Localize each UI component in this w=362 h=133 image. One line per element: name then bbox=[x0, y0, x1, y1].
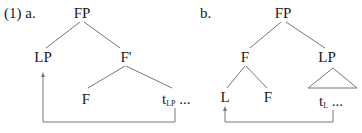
trace-a-ellipsis: ... bbox=[176, 91, 191, 107]
tree-lines bbox=[0, 0, 362, 133]
example-number-text: (1) bbox=[4, 5, 22, 21]
tree-a-head-f: F bbox=[82, 92, 90, 107]
tree-a-trace: tLP ... bbox=[162, 92, 191, 111]
trace-a-subscript: LP bbox=[166, 99, 175, 108]
edge-b-fp-lp bbox=[286, 22, 325, 48]
edge-b-f-l bbox=[227, 66, 245, 88]
tree-b-root: FP bbox=[275, 6, 292, 21]
tree-a-left-child: LP bbox=[34, 50, 52, 65]
arrowhead-a-icon bbox=[41, 72, 45, 77]
edge-a-fp-fbar bbox=[84, 22, 120, 48]
edge-b-f-f bbox=[246, 66, 267, 88]
trace-b-ellipsis: ... bbox=[328, 93, 343, 109]
tree-a-right-child: F' bbox=[120, 50, 131, 65]
edge-a-fp-lp bbox=[46, 22, 80, 48]
tree-a-label: a. bbox=[25, 5, 35, 21]
example-number: (1) a. bbox=[4, 6, 36, 21]
triangle-b-lp bbox=[308, 68, 357, 88]
tree-b-l: L bbox=[220, 90, 229, 105]
tree-b-f: F bbox=[264, 90, 272, 105]
tree-b-label: b. bbox=[200, 6, 211, 21]
tree-b-trace: tL ... bbox=[319, 94, 343, 113]
movement-arrow-b bbox=[225, 110, 333, 122]
arrowhead-b-icon bbox=[223, 106, 227, 111]
edge-a-fbar-trace bbox=[126, 66, 172, 88]
movement-arrow-a bbox=[43, 76, 175, 122]
edge-b-fp-f bbox=[250, 22, 281, 48]
tree-b-left-child: F bbox=[241, 50, 249, 65]
tree-b-right-child: LP bbox=[318, 50, 336, 65]
edge-a-fbar-f bbox=[88, 66, 125, 88]
tree-a-root: FP bbox=[74, 6, 91, 21]
